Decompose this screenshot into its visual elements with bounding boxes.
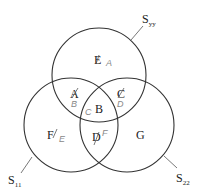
region-annotation-left-right: F	[102, 128, 108, 138]
region-label-center: B	[95, 102, 103, 116]
leader-syy	[131, 26, 143, 40]
set-label-syy: Syy	[142, 12, 156, 28]
region-annotation-center: C	[85, 107, 92, 117]
region-annotation-top-only: A	[105, 58, 112, 68]
region-annotation-top-right: D	[117, 99, 124, 109]
set-label-s11: S11	[8, 173, 22, 189]
region-label-right-only: G	[136, 128, 145, 142]
region-annotation-left-only: E	[59, 134, 66, 144]
leader-s22	[164, 156, 177, 168]
venn-diagram: Syy S11 S22 E A A B C D B C F E D F G	[0, 0, 200, 193]
region-label-left-right: D	[92, 130, 101, 144]
leader-s11	[21, 157, 32, 173]
region-annotation-top-left: B	[71, 99, 77, 109]
set-label-s22: S22	[176, 171, 190, 187]
circle-s22	[80, 78, 174, 172]
region-label-left-only: F	[47, 128, 54, 142]
